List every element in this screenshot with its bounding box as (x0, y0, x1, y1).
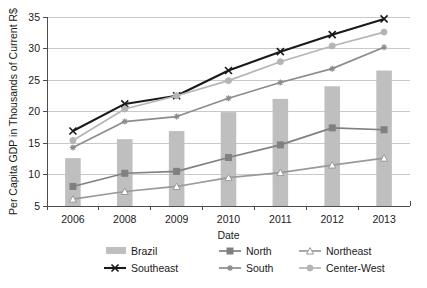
y-tick-label: 5 (34, 200, 40, 212)
marker-square (70, 183, 76, 189)
x-tick-label: 2010 (217, 213, 241, 225)
marker-circle (307, 265, 313, 271)
bar (273, 99, 289, 206)
legend-label: Center-West (326, 262, 385, 274)
marker-circle (381, 29, 387, 35)
marker-asterisk (277, 80, 283, 86)
marker-asterisk (70, 144, 76, 150)
marker-square (277, 142, 283, 148)
marker-circle (277, 59, 283, 65)
marker-circle (174, 93, 180, 99)
legend-item-south[interactable]: South (219, 262, 274, 274)
chart-container: 5101520253035200620082009201020112012201… (0, 0, 427, 288)
legend-item-center-west[interactable]: Center-West (299, 262, 385, 274)
y-tick-label: 10 (28, 168, 40, 180)
x-tick-label: 2009 (165, 213, 189, 225)
legend-label: Southeast (131, 262, 178, 274)
x-tick-label: 2012 (321, 213, 345, 225)
marker-asterisk (227, 265, 233, 271)
y-tick-label: 25 (28, 74, 40, 86)
y-tick-label: 30 (28, 42, 40, 54)
legend-item-brazil[interactable]: Brazil (106, 245, 157, 257)
marker-asterisk (329, 66, 335, 72)
legend-label: South (246, 262, 274, 274)
marker-asterisk (226, 95, 232, 101)
y-tick-label: 20 (28, 105, 40, 117)
legend-item-northeast[interactable]: Northeast (299, 245, 372, 257)
bars-layer (65, 71, 392, 206)
marker-square (329, 125, 335, 131)
marker-asterisk (174, 114, 180, 120)
bar (376, 71, 392, 206)
marker-circle (226, 78, 232, 84)
marker-circle (122, 106, 128, 112)
marker-circle (329, 43, 335, 49)
marker-square (227, 248, 233, 254)
gdp-per-capita-chart: 5101520253035200620082009201020112012201… (0, 0, 427, 288)
legend-swatch-bar (106, 247, 126, 254)
legend-item-north[interactable]: North (219, 245, 272, 257)
x-tick-label: 2008 (113, 213, 137, 225)
marker-square (122, 170, 128, 176)
x-tick-label: 2011 (269, 213, 292, 225)
y-axis-title: Per Capita GDP in Thousands of Current R… (7, 8, 19, 215)
y-tick-label: 35 (28, 11, 40, 23)
legend-label: Northeast (326, 245, 372, 257)
marker-square (174, 168, 180, 174)
legend-item-southeast[interactable]: Southeast (104, 262, 178, 274)
marker-cross (69, 128, 76, 135)
marker-circle (70, 137, 76, 143)
marker-asterisk (122, 119, 128, 125)
x-axis-title: Date (217, 229, 239, 241)
legend: BrazilNorthNortheastSoutheastSouthCenter… (104, 245, 385, 274)
x-tick-label: 2006 (61, 213, 85, 225)
y-tick-label: 15 (28, 137, 40, 149)
marker-square (226, 154, 232, 160)
x-tick-label: 2013 (372, 213, 396, 225)
bar (324, 86, 340, 206)
legend-label: Brazil (131, 245, 157, 257)
legend-label: North (246, 245, 272, 257)
marker-square (381, 127, 387, 133)
marker-asterisk (381, 44, 387, 50)
